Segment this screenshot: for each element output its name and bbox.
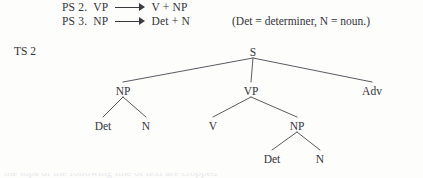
tree-node-n1: N bbox=[142, 120, 150, 132]
cropped-text-artifact: the tops of the following line of text a… bbox=[0, 173, 423, 178]
tree-edge-vp-v bbox=[213, 97, 251, 117]
tree-node-vp: VP bbox=[244, 85, 259, 97]
tree-edge-s-np1 bbox=[123, 58, 253, 82]
tree-node-s: S bbox=[250, 46, 256, 58]
tree-edge-np2-n2 bbox=[297, 132, 320, 150]
tree-node-v: V bbox=[209, 120, 217, 132]
tree-edge-np2-det2 bbox=[272, 132, 297, 150]
tree-node-det1: Det bbox=[95, 120, 112, 132]
tree-edge-s-adv bbox=[253, 58, 372, 82]
tree-node-np2: NP bbox=[290, 120, 305, 132]
tree-node-adv: Adv bbox=[362, 85, 382, 97]
tree-node-n2: N bbox=[316, 153, 324, 165]
tree-node-det2: Det bbox=[264, 153, 281, 165]
syntax-tree-diagram: SNPVPAdvDetNVNPDetN bbox=[0, 0, 423, 178]
cropped-text-line: the tops of the following line of text a… bbox=[4, 173, 217, 178]
tree-edge-s-vp bbox=[251, 58, 253, 82]
tree-edge-np1-n1 bbox=[123, 97, 146, 117]
scanned-page: PS 2.VPV + NP PS 3.NPDet + N (Det = dete… bbox=[0, 0, 423, 178]
tree-edges bbox=[0, 0, 423, 178]
tree-edge-vp-np2 bbox=[251, 97, 297, 117]
tree-edge-np1-det1 bbox=[103, 97, 123, 117]
tree-node-np1: NP bbox=[116, 85, 131, 97]
